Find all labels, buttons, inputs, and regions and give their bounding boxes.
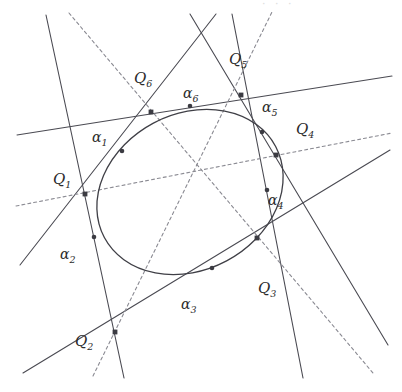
alpha-label-sub-a4: 4	[277, 200, 283, 211]
tangent-line-t5	[190, 14, 388, 345]
vertex-point-Q1	[83, 192, 88, 197]
diagonal-line-d36	[69, 13, 373, 373]
alpha-label-sub-a2: 2	[69, 254, 75, 265]
diagonal-line-d14	[16, 133, 392, 206]
vertex-label-Q1: Q1	[53, 172, 71, 190]
vertex-label-sub-Q5: 5	[241, 59, 247, 70]
tangency-point-a3	[210, 266, 215, 271]
vertex-label-sub-Q3: 3	[270, 288, 276, 299]
alpha-label-sub-a5: 5	[271, 107, 277, 118]
alpha-label-a2: α2	[60, 247, 76, 264]
tangent-line-t1	[20, 14, 216, 265]
diagonal-line-group	[16, 12, 392, 376]
vertex-point-Q4	[274, 153, 279, 158]
vertex-label-Q3: Q3	[258, 281, 276, 299]
vertex-label-base-Q2: Q	[75, 332, 87, 350]
vertex-label-base-Q4: Q	[296, 120, 308, 138]
vertex-label-Q2: Q2	[75, 334, 93, 352]
tangent-line-t2	[46, 15, 124, 378]
tangency-point-a5	[260, 130, 265, 135]
vertex-point-Q2	[113, 330, 118, 335]
page-artifact-text: · · ·	[262, 0, 294, 11]
alpha-label-a5: α5	[262, 100, 278, 117]
vertex-label-base-Q3: Q	[258, 279, 270, 297]
vertex-label-base-Q6: Q	[134, 69, 146, 87]
vertex-point-Q5	[239, 93, 244, 98]
vertex-label-sub-Q1: 1	[65, 179, 71, 190]
vertex-label-base-Q1: Q	[53, 170, 65, 188]
vertex-label-sub-Q4: 4	[308, 129, 314, 140]
alpha-label-sub-a6: 6	[192, 93, 198, 104]
vertex-label-Q5: Q5	[229, 52, 247, 70]
tangent-line-group	[17, 14, 392, 378]
vertex-label-Q4: Q4	[296, 122, 314, 140]
vertex-point-Q3	[255, 236, 260, 241]
alpha-label-a3: α3	[181, 297, 197, 314]
tangent-line-t6	[17, 76, 392, 135]
tangency-point-a2	[92, 235, 97, 240]
vertex-point-Q6	[149, 110, 154, 115]
vertex-label-sub-Q6: 6	[146, 78, 152, 89]
alpha-label-a1: α1	[92, 130, 108, 147]
tangency-point-a1	[120, 149, 125, 154]
vertex-label-sub-Q2: 2	[87, 341, 93, 352]
alpha-label-a4: α4	[268, 193, 284, 210]
vertex-label-base-Q5: Q	[229, 50, 241, 68]
alpha-label-sub-a1: 1	[101, 137, 107, 148]
alpha-label-a6: α6	[183, 86, 199, 103]
alpha-label-sub-a3: 3	[190, 304, 196, 315]
tangency-point-a6	[188, 104, 193, 109]
brianchon-figure: · · · Q1Q2Q3Q4Q5Q6α1α2α3α4α5α6	[0, 0, 402, 392]
vertex-label-Q6: Q6	[134, 71, 152, 89]
geometry-canvas	[0, 0, 402, 392]
